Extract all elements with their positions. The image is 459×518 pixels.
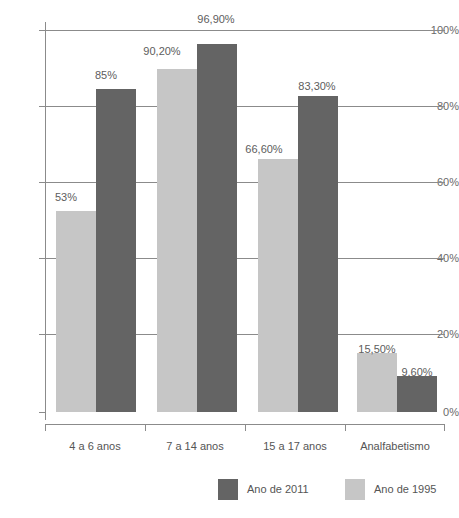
- x-axis-label-7-a-14-anos: 7 a 14 anos: [145, 440, 245, 452]
- value-label-1995-7-a-14-anos: 90,20%: [134, 46, 190, 57]
- bar-1995-7-a-14-anos: [157, 69, 197, 412]
- x-tick-mark-4: [444, 424, 445, 431]
- y-tick-mark-0: [39, 412, 46, 413]
- x-axis-label-15-a-17-anos: 15 a 17 anos: [245, 440, 345, 452]
- gridline-100: [45, 30, 445, 31]
- bar-1995-4-a-6-anos: [56, 211, 96, 412]
- bar-1995-15-a-17-anos: [258, 159, 298, 412]
- bar-2011-15-a-17-anos: [298, 96, 338, 413]
- value-label-1995-15-a-17-anos: 66,60%: [236, 144, 292, 155]
- legend-label-2011: Ano de 2011: [247, 484, 309, 495]
- value-label-2011-7-a-14-anos: 96,90%: [188, 14, 244, 25]
- x-tick-mark-0: [45, 424, 46, 431]
- bar-2011-analfabetismo: [397, 376, 437, 413]
- bar-2011-7-a-14-anos: [197, 44, 237, 412]
- legend-swatch-icon-1995: [345, 479, 365, 500]
- legend-label-1995: Ano de 1995: [374, 484, 436, 495]
- x-tick-mark-1: [145, 424, 146, 431]
- x-axis-label-4-a-6-anos: 4 a 6 anos: [45, 440, 145, 452]
- x-tick-mark-2: [245, 424, 246, 431]
- legend-item-ano-de-2011[interactable]: Ano de 2011: [218, 478, 309, 500]
- legend-item-ano-de-1995[interactable]: Ano de 1995: [345, 478, 436, 500]
- legend-swatch-icon-2011: [218, 479, 238, 500]
- value-label-1995-4-a-6-anos: 53%: [46, 192, 86, 203]
- value-label-2011-analfabetismo: 9,60%: [391, 367, 443, 378]
- bar-2011-4-a-6-anos: [96, 89, 136, 412]
- x-tick-mark-3: [345, 424, 346, 431]
- x-axis-label-analfabetismo: Analfabetismo: [345, 440, 445, 452]
- bar-1995-analfabetismo: [357, 353, 397, 412]
- bar-chart: 100% 80% 60% 40% 20% 0% 53% 85% 90,20% 9…: [0, 0, 459, 518]
- value-label-1995-analfabetismo: 15,50%: [349, 344, 405, 355]
- value-label-2011-15-a-17-anos: 83,30%: [289, 81, 345, 92]
- chart-legend: Ano de 2011 Ano de 1995: [0, 478, 459, 504]
- value-label-2011-4-a-6-anos: 85%: [86, 70, 126, 81]
